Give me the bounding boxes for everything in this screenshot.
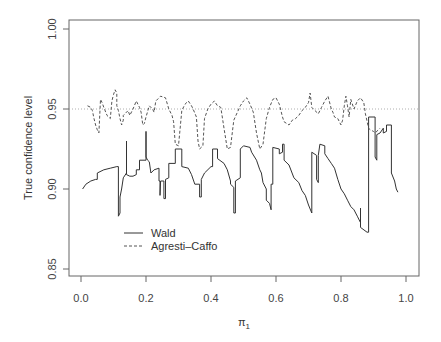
y-axis-label: True confidence level <box>22 96 34 200</box>
x-axis: 0.00.20.40.60.81.0 <box>73 276 413 304</box>
plot-frame <box>69 20 419 276</box>
y-axis: 0.850.900.951.00 <box>46 18 69 279</box>
series-layer <box>83 90 398 232</box>
series-wald <box>83 117 398 232</box>
legend-label-wald: Wald <box>151 227 176 239</box>
x-tick-label: 0.8 <box>333 292 348 304</box>
x-tick-label: 0.4 <box>203 292 218 304</box>
x-axis-label-sub: 1 <box>246 322 251 331</box>
legend-label-agresti-caffo: Agresti–Caffo <box>151 240 217 252</box>
y-tick-label: 0.95 <box>46 98 58 119</box>
chart-area: 0.850.900.951.00 0.00.20.40.60.81.0 True… <box>0 0 441 342</box>
x-tick-label: 0.2 <box>138 292 153 304</box>
series-agresti-caffo <box>88 90 381 149</box>
y-tick-label: 0.85 <box>46 258 58 279</box>
y-tick-label: 0.90 <box>46 178 58 199</box>
x-axis-label: π1 <box>238 316 251 331</box>
y-tick-label: 1.00 <box>46 18 58 39</box>
x-tick-label: 0.6 <box>268 292 283 304</box>
legend: Wald Agresti–Caffo <box>124 227 217 252</box>
x-tick-label: 0.0 <box>73 292 88 304</box>
x-tick-label: 1.0 <box>398 292 413 304</box>
